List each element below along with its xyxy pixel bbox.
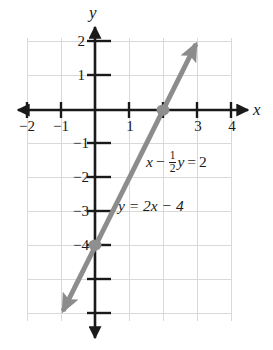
equation1-fraction-numerator: 1 bbox=[169, 150, 177, 162]
x-tick-label-1: 1 bbox=[126, 119, 134, 134]
y-axis-ticks bbox=[87, 41, 111, 313]
equation1-right-hand-side: 2 bbox=[199, 154, 207, 170]
y-axis-label: y bbox=[89, 4, 97, 21]
y-tick-label-2: 2 bbox=[78, 34, 86, 49]
x-tick-label-4: 4 bbox=[228, 119, 236, 134]
y-tick-label-neg1: −1 bbox=[73, 136, 89, 151]
coordinate-plane-svg bbox=[0, 0, 273, 350]
equation-slope-intercept-form: y = 2x − 4 bbox=[118, 198, 184, 214]
equation1-fraction: 1 2 bbox=[169, 150, 177, 174]
equation1-variable-x: x bbox=[146, 154, 153, 170]
graph-figure: −2 −1 1 3 4 2 1 −1 −2 −3 −4 x y x − 1 2 … bbox=[0, 0, 273, 350]
y-tick-label-neg2: −2 bbox=[73, 170, 89, 185]
x-tick-label-neg1: −1 bbox=[53, 119, 69, 134]
y-tick-label-neg3: −3 bbox=[73, 204, 89, 219]
x-tick-label-neg2: −2 bbox=[19, 119, 35, 134]
x-tick-label-3: 3 bbox=[194, 119, 202, 134]
equation1-variable-y: y bbox=[177, 154, 184, 170]
y-tick-label-neg4: −4 bbox=[73, 238, 89, 253]
equation1-fraction-denominator: 2 bbox=[169, 162, 177, 175]
equation1-minus-sign: − bbox=[153, 154, 168, 170]
y-tick-label-1: 1 bbox=[78, 68, 86, 83]
equation1-equals-sign: = bbox=[184, 154, 199, 170]
x-axis-label: x bbox=[253, 101, 261, 118]
equation-standard-form: x − 1 2 y = 2 bbox=[146, 150, 207, 174]
